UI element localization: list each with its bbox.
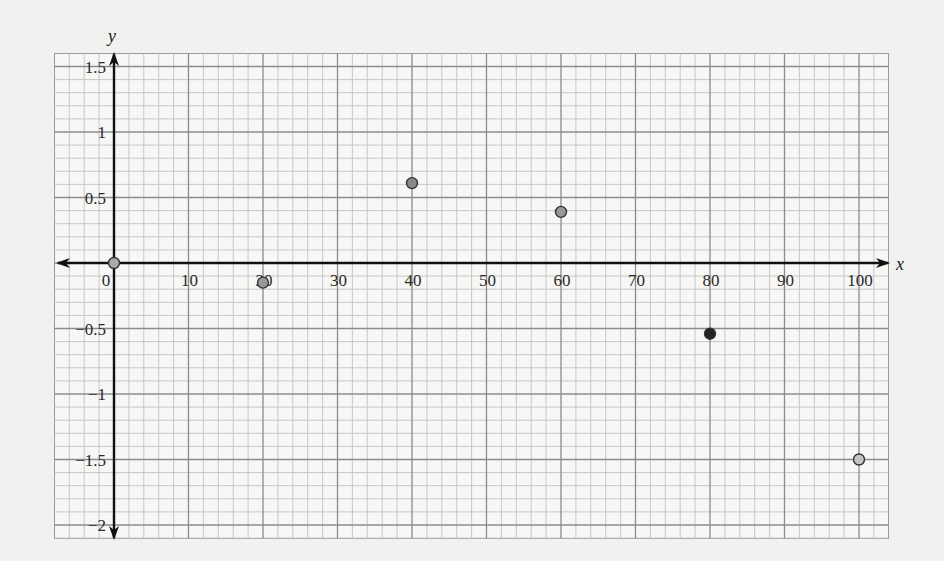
y-tick-label: −2 (88, 516, 106, 535)
data-point (258, 277, 269, 288)
x-tick-label: 30 (330, 271, 347, 290)
x-tick-label: 100 (847, 271, 873, 290)
y-tick-label: −1.5 (75, 451, 106, 470)
data-point (705, 328, 716, 339)
y-axis-label: y (106, 26, 116, 46)
x-tick-label: 60 (554, 271, 571, 290)
x-tick-label: 10 (181, 271, 198, 290)
y-tick-label: 1 (98, 123, 107, 142)
x-tick-label: 50 (479, 271, 496, 290)
x-tick-label: 70 (628, 271, 645, 290)
x-tick-label: 40 (405, 271, 422, 290)
x-tick-label: 90 (777, 271, 794, 290)
data-point (109, 258, 120, 269)
data-point (407, 178, 418, 189)
x-tick-label: 80 (703, 271, 720, 290)
data-point (854, 454, 865, 465)
y-tick-label: −1 (88, 385, 106, 404)
scatter-plot: 0102030405060708090100 1.510.5−0.5−1−1.5… (0, 0, 944, 561)
x-axis-label: x (895, 254, 904, 274)
y-tick-label: −0.5 (75, 320, 106, 339)
data-point (556, 206, 567, 217)
y-tick-label: 1.5 (85, 58, 106, 77)
x-tick-label: 0 (102, 271, 111, 290)
y-tick-label: 0.5 (85, 189, 106, 208)
